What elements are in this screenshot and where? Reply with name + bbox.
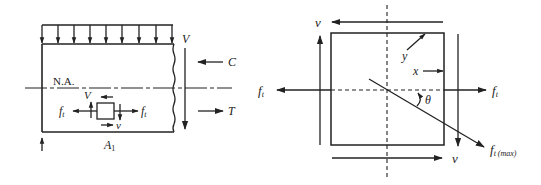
tension-stress-left-label: ft [59,104,65,119]
stress-element [73,97,138,125]
y-dimension-arrow [407,34,425,50]
tension-left-label: ft [258,83,265,99]
principal-stress-diagram: ft ft v v x y ft (max) θ [258,5,517,178]
area-label: A1 [103,138,115,153]
distributed-load [42,25,173,43]
tension-right-label: ft [492,83,499,99]
compression-label: C [228,55,237,69]
element-shear-V-label: V [84,89,92,101]
neutral-axis-label: N.A. [53,75,75,87]
x-label: x [412,64,419,78]
element-shear-v-label: v [116,119,121,131]
beam-free-body-diagram: N.A. V C T V v ft f [25,25,237,153]
tension-label: T [228,104,236,118]
angle-theta-label: θ [425,93,431,107]
shear-bottom-label: v [452,151,458,166]
angle-arc [417,93,420,106]
principal-stress-arrow [369,79,484,147]
shear-top-label: v [315,15,321,30]
tension-stress-right-label: ft [141,104,147,119]
principal-stress-label: ft (max) [490,142,517,158]
y-label: y [401,49,408,63]
shear-force-label: V [182,32,191,46]
